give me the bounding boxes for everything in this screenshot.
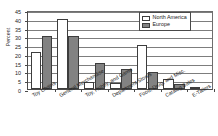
bar-group	[28, 12, 55, 89]
legend-swatch-north-america	[142, 16, 150, 21]
y-axis-tick-label: 40	[15, 19, 21, 24]
legend-swatch-europe	[142, 23, 150, 28]
y-axis-tick-label: 5	[18, 81, 21, 86]
x-axis-tick	[214, 89, 215, 92]
y-axis-tick-label: 25	[15, 45, 21, 50]
y-axis-tick-label: 45	[15, 10, 21, 15]
legend-label-europe: Europe	[153, 22, 170, 27]
y-axis-tick-label: 15	[15, 63, 21, 68]
bar	[31, 52, 42, 89]
y-axis-tick-label: 20	[15, 54, 21, 59]
legend-label-north-america: North America	[153, 15, 187, 20]
bar-chart: Percent 454035302520151050 Toy ChainsGen…	[0, 0, 218, 136]
x-axis-labels: Toy ChainsGeneral MerchandiseToy, Hobby,…	[27, 91, 213, 136]
y-axis-tick-label: 30	[15, 37, 21, 42]
legend-item-europe: Europe	[142, 22, 187, 29]
y-axis-tick-label: 35	[15, 28, 21, 33]
y-axis-tick-label: 10	[15, 72, 21, 77]
y-axis-title: Percent	[5, 15, 11, 59]
legend: North America Europe	[139, 12, 191, 31]
bar	[57, 19, 68, 89]
bar-group	[55, 12, 82, 89]
y-axis-tick-label: 0	[18, 89, 21, 94]
